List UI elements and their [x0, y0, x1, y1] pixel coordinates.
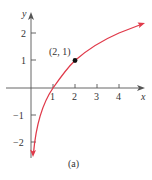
- y-tick-label: 2: [21, 28, 26, 39]
- y-tick-label: 1: [21, 55, 26, 66]
- x-ticks: [53, 84, 119, 88]
- x-tick-label: 4: [116, 91, 121, 102]
- log-curve: [34, 25, 142, 154]
- x-tick-label: 3: [94, 91, 99, 102]
- y-axis-label: y: [21, 8, 27, 19]
- point-label: (2, 1): [49, 46, 71, 58]
- y-tick-label: −2: [13, 137, 24, 148]
- y-tick-label: −1: [13, 110, 24, 121]
- point-marker: [73, 58, 78, 63]
- figure-caption: (a): [68, 158, 79, 170]
- y-ticks: [31, 33, 36, 142]
- x-tick-label: 2: [72, 91, 77, 102]
- graph-canvas: 1 2 3 4 2 1 −1 −2 x y (2, 1) (a): [0, 0, 152, 180]
- x-axis-label: x: [140, 91, 146, 102]
